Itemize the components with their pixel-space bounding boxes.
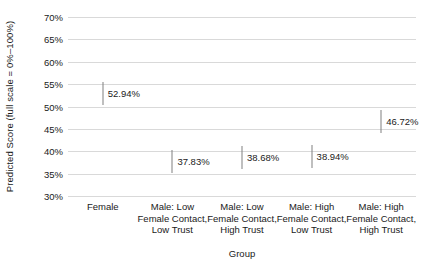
- data-point-marker: [242, 146, 243, 169]
- x-tick-label-line: High Trust: [346, 224, 416, 236]
- y-tick-label: 45%: [44, 123, 63, 134]
- x-tick-label: Male: HighFemale Contact,High Trust: [346, 201, 416, 236]
- data-point-marker: [172, 150, 173, 173]
- x-tick-label-line: Male: Low: [138, 201, 208, 213]
- chart-container: Predicted Score (full scale = 0%–100%) 7…: [0, 0, 424, 270]
- x-tick-label-line: Female Contact,: [138, 213, 208, 225]
- x-tick-label-line: Male: High: [277, 201, 347, 213]
- x-tick-label-line: Female Contact,: [277, 213, 347, 225]
- x-tick-label: Male: LowFemale Contact,Low Trust: [138, 201, 208, 236]
- gridline: [68, 196, 416, 197]
- x-tick-label-line: High Trust: [207, 224, 277, 236]
- plot-area: 70%65%60%55%50%45%40%35%30% 52.94%37.83%…: [68, 17, 416, 196]
- gridline: [68, 174, 416, 175]
- y-tick-label: 50%: [44, 101, 63, 112]
- x-tick-label: Female: [87, 201, 119, 213]
- gridline: [68, 39, 416, 40]
- x-tick-label: Male: LowFemale Contact,High Trust: [207, 201, 277, 236]
- x-axis-title: Group: [68, 248, 416, 259]
- y-tick-label: 40%: [44, 146, 63, 157]
- x-tick-label-line: Female Contact,: [346, 213, 416, 225]
- gridline: [68, 107, 416, 108]
- x-tick-label-line: Low Trust: [138, 224, 208, 236]
- y-tick-label: 65%: [44, 34, 63, 45]
- x-axis-title-text: Group: [229, 248, 255, 259]
- gridline: [68, 62, 416, 63]
- x-tick-label-line: Female: [87, 201, 119, 213]
- y-tick-label: 35%: [44, 168, 63, 179]
- y-axis-title: Predicted Score (full scale = 0%–100%): [0, 0, 20, 212]
- gridline: [68, 129, 416, 130]
- y-axis-title-text: Predicted Score (full scale = 0%–100%): [5, 20, 16, 191]
- y-tick-label: 60%: [44, 56, 63, 67]
- gridline: [68, 17, 416, 18]
- data-point-label: 52.94%: [108, 88, 140, 99]
- x-tick-labels-group: FemaleMale: LowFemale Contact,Low TrustM…: [68, 201, 416, 247]
- gridline: [68, 84, 416, 85]
- data-point-marker: [102, 82, 103, 105]
- x-tick-label: Male: HighFemale Contact,Low Trust: [277, 201, 347, 236]
- x-tick-label-line: Low Trust: [277, 224, 347, 236]
- x-tick-label-line: Female Contact,: [207, 213, 277, 225]
- y-tick-label: 70%: [44, 12, 63, 23]
- y-tick-label: 55%: [44, 79, 63, 90]
- data-point-label: 37.83%: [177, 155, 209, 166]
- data-point-label: 46.72%: [386, 116, 418, 127]
- data-point-marker: [311, 145, 312, 168]
- data-point-marker: [381, 110, 382, 133]
- x-tick-label-line: Male: High: [346, 201, 416, 213]
- data-point-label: 38.94%: [317, 150, 349, 161]
- data-point-label: 38.68%: [247, 152, 279, 163]
- x-tick-label-line: Male: Low: [207, 201, 277, 213]
- y-tick-label: 30%: [44, 191, 63, 202]
